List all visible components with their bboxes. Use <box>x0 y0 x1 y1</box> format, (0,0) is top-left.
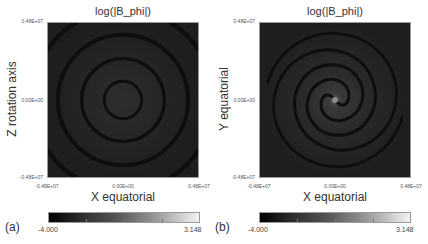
x-tick-left: -0.48E+07 <box>27 183 67 189</box>
colorbar-max-label: 3.148 <box>396 226 414 233</box>
y-axis-label: Y equatorial <box>217 29 231 169</box>
colorbar <box>48 212 200 223</box>
panel-label: (a) <box>5 220 20 234</box>
panel-label: (b) <box>215 220 230 234</box>
panel-a: log(|B_phi|) 0.48E+07 0.00E+00 -0.48E+07… <box>0 0 214 244</box>
panel-b: log(|B_phi|) 0.48E+07 0.00E+00 -0.48E+07… <box>212 0 426 244</box>
colorbar-tick <box>373 219 374 222</box>
y-tick-top: 0.48E+07 <box>3 18 43 24</box>
colorbar-tick <box>86 219 87 222</box>
x-tick-right: 0.48E+07 <box>391 183 428 189</box>
y-tick-bottom: -0.48E+07 <box>215 174 255 180</box>
colorbar-min-label: -4.000 <box>38 226 58 233</box>
colorbar-tick <box>335 219 336 222</box>
colorbar-tick <box>124 219 125 222</box>
rings-heatmap <box>48 23 198 177</box>
y-axis-label: Z rotation axis <box>5 29 19 169</box>
plot-title: log(|B_phi|) <box>47 5 199 17</box>
colorbar <box>259 212 411 223</box>
x-axis-label: X equatorial <box>47 190 199 204</box>
x-tick-mid: 0.00E+00 <box>315 183 355 189</box>
heatmap-plot <box>259 22 411 178</box>
colorbar-min-label: -4.000 <box>248 226 268 233</box>
x-axis-label: X equatorial <box>259 190 411 204</box>
colorbar-max-label: 3.148 <box>184 226 202 233</box>
x-tick-left: -0.48E+07 <box>239 183 279 189</box>
plot-title: log(|B_phi|) <box>259 5 411 17</box>
colorbar-tick <box>162 219 163 222</box>
heatmap-plot <box>47 22 199 178</box>
y-tick-bottom: -0.48E+07 <box>3 174 43 180</box>
x-tick-mid: 0.00E+00 <box>103 183 143 189</box>
spiral-heatmap <box>260 23 410 177</box>
y-tick-top: 0.48E+07 <box>215 18 255 24</box>
colorbar-tick <box>297 219 298 222</box>
